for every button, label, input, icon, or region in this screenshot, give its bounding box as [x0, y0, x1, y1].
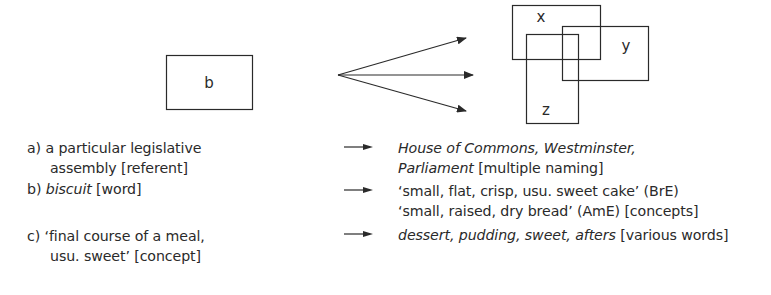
example-b-prefix: b) [27, 181, 46, 197]
example-c-right: dessert, pudding, sweet, afters [various… [398, 225, 728, 245]
arrow-right-icon [344, 186, 374, 194]
example-c-left-line1: c) ‘final course of a meal, [27, 226, 205, 246]
example-a-right-plain: [multiple naming] [474, 160, 604, 176]
source-box-b: b [167, 56, 253, 110]
example-c-left-line2: usu. sweet’ [concept] [50, 246, 201, 266]
example-a-right-line2: Parliament [multiple naming] [398, 158, 603, 178]
example-b-right-line2: ‘small, raised, dry bread’ (AmE) [concep… [398, 201, 698, 221]
source-box-label: b [204, 74, 214, 92]
example-b-suffix: [word] [92, 181, 142, 197]
example-b-word: biscuit [46, 181, 92, 197]
example-a-right-italic2: Parliament [398, 160, 474, 176]
example-b-left: b) biscuit [word] [27, 179, 141, 199]
target-box-y-label: y [622, 37, 631, 55]
example-a-left-line2: assembly [referent] [50, 158, 188, 178]
example-a-right-line1: House of Commons, Westminster, [398, 138, 636, 158]
example-c-right-plain: [various words] [616, 227, 729, 243]
naming-diagram: b x y z [0, 0, 771, 130]
arrow-right-icon [344, 230, 374, 238]
target-box-x: x [513, 6, 601, 60]
arrow-right-icon [344, 143, 374, 151]
fan-arrows-icon [338, 38, 473, 111]
example-c-right-italic: dessert, pudding, sweet, afters [398, 227, 616, 243]
target-box-x-label: x [537, 8, 546, 26]
example-a-left-line1: a) a particular legislative [27, 138, 201, 158]
example-a-right-italic1: House of Commons, Westminster, [398, 140, 636, 156]
target-box-z: z [527, 35, 579, 124]
example-b-right-line1: ‘small, flat, crisp, usu. sweet cake’ (B… [398, 181, 679, 201]
target-box-z-label: z [542, 101, 550, 119]
